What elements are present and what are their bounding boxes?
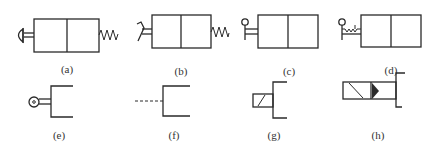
symbol-e: (e): [29, 86, 73, 142]
detent-lever-icon: [339, 19, 361, 40]
push-button-icon: [19, 28, 35, 43]
label-h: (h): [372, 129, 385, 142]
symbol-a: (a): [19, 19, 119, 76]
label-f: (f): [169, 129, 180, 142]
symbol-b: (b): [137, 15, 229, 78]
port-bracket: [51, 86, 73, 117]
lever-icon: [242, 19, 258, 40]
port-bracket: [163, 86, 190, 116]
roller-icon: [29, 97, 51, 107]
symbol-c: (c): [242, 15, 318, 78]
valve-symbols-diagram: (a) (b) (c): [0, 0, 437, 153]
solenoid-pilot-icon: [343, 82, 396, 99]
spring-icon: [211, 27, 229, 37]
spring-icon: [99, 30, 118, 40]
symbol-h: (h): [343, 73, 405, 142]
label-g: (g): [268, 129, 281, 142]
symbol-f: (f): [135, 86, 190, 142]
symbol-g: (g): [253, 82, 287, 142]
triangle-icon: [372, 83, 379, 99]
port-bracket: [273, 82, 287, 118]
label-c: (c): [283, 65, 296, 78]
label-b: (b): [175, 65, 188, 78]
solenoid-icon: [253, 94, 273, 107]
label-e: (e): [53, 129, 66, 142]
symbol-d: (d): [339, 15, 421, 77]
pedal-icon: [137, 22, 152, 41]
label-a: (a): [61, 63, 74, 76]
port-bracket: [396, 73, 405, 107]
